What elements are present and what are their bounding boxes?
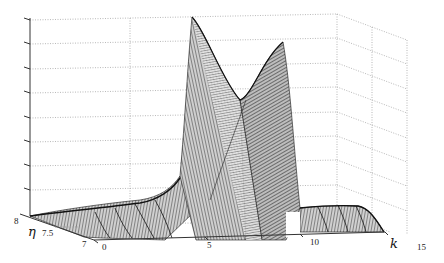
- x-axis-label: k: [390, 236, 398, 251]
- x-tick-5: 5: [207, 240, 212, 250]
- y-tick-7-5: 7.5: [42, 228, 53, 238]
- surface-left-ridge: [30, 176, 196, 240]
- y-tick-8: 8: [14, 216, 19, 226]
- x-tick-0: 0: [102, 242, 107, 252]
- surface-right-ridge: [300, 206, 384, 232]
- z-axis: [24, 18, 30, 216]
- x-tick-15: 15: [417, 242, 426, 252]
- x-tick-10: 10: [310, 237, 319, 247]
- y-tick-7: 7: [82, 239, 87, 249]
- surface-plot: [0, 0, 444, 263]
- y-axis-label: η: [28, 224, 36, 239]
